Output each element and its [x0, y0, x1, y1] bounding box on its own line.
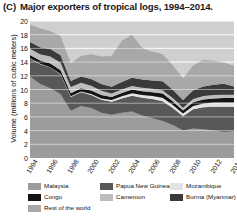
legend-swatch	[28, 194, 41, 201]
stacked-area-chart	[30, 21, 234, 158]
x-tick-label: 2010	[188, 158, 202, 175]
legend-swatch	[170, 183, 183, 190]
x-tick-label: 2008	[168, 158, 182, 175]
legend-label: Malaysia	[44, 183, 68, 189]
legend-item: Mozambique	[170, 183, 221, 190]
legend-item: Congo	[28, 194, 62, 201]
x-axis-tick-labels: 1994199619982000200220042006200820102012…	[30, 158, 234, 184]
y-tick-label: 6	[14, 113, 28, 120]
legend-label: Congo	[44, 194, 62, 200]
legend-label: Rest of the world	[44, 205, 90, 211]
y-tick-label: 8	[14, 100, 28, 107]
legend-item: Cameroon	[100, 194, 145, 201]
y-tick-label: 20	[14, 18, 28, 25]
figure-panel-c: (C) Major exporters of tropical logs, 19…	[0, 0, 237, 220]
y-tick-label: 10	[14, 86, 28, 93]
area-series-group	[30, 21, 234, 158]
chart-legend: MalaysiaPapua New GuineaMozambiqueCongoC…	[28, 183, 236, 219]
legend-item: Rest of the world	[28, 205, 90, 212]
figure-title-row: (C) Major exporters of tropical logs, 19…	[3, 1, 235, 12]
legend-swatch	[100, 183, 113, 190]
x-tick-label: 2004	[127, 158, 141, 175]
x-tick-label: 1998	[66, 158, 80, 175]
legend-item: Malaysia	[28, 183, 68, 190]
y-tick-label: 16	[14, 45, 28, 52]
y-tick-label: 18	[14, 31, 28, 38]
legend-swatch	[28, 205, 41, 212]
page-title: Major exporters of tropical logs, 1994–2…	[20, 1, 213, 12]
y-tick-label: 14	[14, 59, 28, 66]
legend-label: Papua New Guinea	[116, 183, 170, 189]
y-tick-label: 2	[14, 141, 28, 148]
panel-letter: (C)	[3, 1, 16, 12]
legend-label: Burma (Myanmar)	[186, 194, 236, 200]
x-tick-label: 2006	[147, 158, 161, 175]
y-tick-label: 12	[14, 72, 28, 79]
y-tick-label: 0	[14, 155, 28, 162]
plot-area	[30, 21, 234, 158]
x-tick-label: 2014	[229, 158, 237, 175]
x-tick-label: 2002	[107, 158, 121, 175]
legend-swatch	[100, 194, 113, 201]
y-tick-label: 4	[14, 127, 28, 134]
x-tick-label: 1996	[45, 158, 59, 175]
legend-item: Burma (Myanmar)	[170, 194, 236, 201]
legend-label: Cameroon	[116, 194, 145, 200]
legend-label: Mozambique	[186, 183, 221, 189]
x-tick-label: 2000	[86, 158, 100, 175]
legend-swatch	[170, 194, 183, 201]
x-tick-label: 2012	[209, 158, 223, 175]
legend-item: Papua New Guinea	[100, 183, 170, 190]
legend-swatch	[28, 183, 41, 190]
y-axis-tick-labels: 02468101214161820	[10, 21, 28, 158]
